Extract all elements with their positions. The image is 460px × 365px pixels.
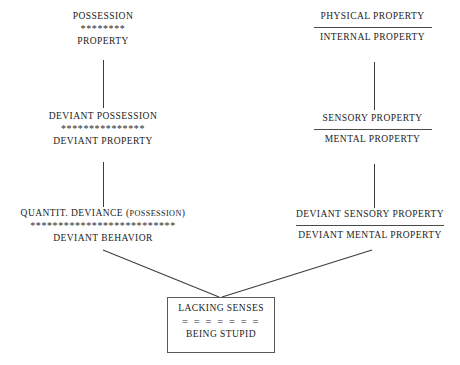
node-quantit-deviance-behavior: QUANTIT. DEVIANCE (POSSESSION) *********… bbox=[0, 207, 206, 245]
diagram-canvas: POSSESSION ******** PROPERTY DEVIANT POS… bbox=[0, 0, 460, 365]
node-quantit-deviance-label: QUANTIT. DEVIANCE (POSSESSION) bbox=[0, 207, 206, 220]
node-deviant-property-label: DEVIANT PROPERTY bbox=[18, 135, 188, 148]
node-physical-internal-property: PHYSICAL PROPERTY INTERNAL PROPERTY bbox=[290, 10, 455, 44]
quantit-deviance-close: ) bbox=[182, 208, 186, 218]
node-deviant-sensory-property-label: DEVIANT SENSORY PROPERTY bbox=[280, 208, 460, 221]
node-lacking-senses-label: LACKING SENSES bbox=[168, 302, 274, 315]
connector-deviant-property-to-quantit bbox=[103, 162, 104, 207]
node-sensory-property-label: SENSORY PROPERTY bbox=[290, 112, 455, 125]
edge-deviant-mental-to-box bbox=[222, 250, 372, 297]
edge-deviant-behavior-to-box bbox=[103, 250, 219, 297]
node-physical-property-label: PHYSICAL PROPERTY bbox=[290, 10, 455, 23]
node-deviant-possession-label: DEVIANT POSSESSION bbox=[18, 110, 188, 123]
separator-stars-2: *************** bbox=[18, 123, 188, 135]
quantit-deviance-possession: POSSESSION bbox=[130, 209, 182, 218]
node-possession-property: POSSESSION ******** PROPERTY bbox=[18, 10, 188, 48]
connector-internal-to-sensory bbox=[374, 62, 375, 110]
node-deviant-mental-property-label: DEVIANT MENTAL PROPERTY bbox=[280, 229, 460, 242]
connector-property-to-deviant-possession bbox=[103, 60, 104, 108]
quantit-deviance-main: QUANTIT. DEVIANCE ( bbox=[21, 208, 130, 218]
separator-rule-3 bbox=[296, 225, 444, 226]
node-deviant-sensory-mental-property: DEVIANT SENSORY PROPERTY DEVIANT MENTAL … bbox=[280, 208, 460, 242]
separator-rule-1 bbox=[314, 27, 432, 28]
node-deviant-behavior-label: DEVIANT BEHAVIOR bbox=[0, 232, 206, 245]
node-sensory-mental-property: SENSORY PROPERTY MENTAL PROPERTY bbox=[290, 112, 455, 146]
separator-stars-3: ************************** bbox=[0, 220, 206, 232]
separator-stars-1: ******** bbox=[18, 23, 188, 35]
connector-mental-to-deviant-sensory bbox=[374, 164, 375, 208]
node-internal-property-label: INTERNAL PROPERTY bbox=[290, 31, 455, 44]
node-mental-property-label: MENTAL PROPERTY bbox=[290, 133, 455, 146]
node-property-label: PROPERTY bbox=[18, 35, 188, 48]
separator-equals: = = = = = = = bbox=[168, 315, 274, 328]
result-box: LACKING SENSES = = = = = = = BEING STUPI… bbox=[167, 297, 275, 353]
separator-rule-2 bbox=[314, 129, 432, 130]
node-being-stupid-label: BEING STUPID bbox=[168, 328, 274, 341]
node-possession-label: POSSESSION bbox=[18, 10, 188, 23]
node-deviant-possession-property: DEVIANT POSSESSION *************** DEVIA… bbox=[18, 110, 188, 148]
